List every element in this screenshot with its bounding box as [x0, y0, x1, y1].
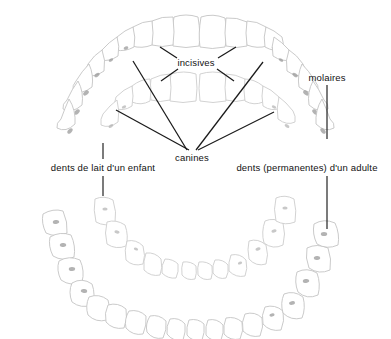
tooth-adult-lower-premolar — [105, 304, 126, 328]
tooth-baby-upper-molar — [101, 100, 119, 126]
tooth-adult-lower-canine — [125, 311, 146, 335]
label-dents-de-lait: dents de lait d'un enfant — [51, 163, 155, 173]
tooth-adult-upper — [225, 18, 248, 48]
tooth-baby-lower-molar — [275, 196, 296, 224]
tooth-baby-lower-incisor — [162, 259, 178, 278]
tooth-baby-upper-incisor — [150, 74, 171, 102]
tooth-baby-lower-incisor — [198, 262, 213, 280]
tooth-adult-lower-incisor — [146, 316, 166, 339]
dental-diagram: incisives canines molaires dents de lait… — [0, 0, 391, 339]
leader-line-canines — [198, 112, 274, 150]
leader-line-incisives — [218, 47, 236, 58]
tooth-adult-lower-incisor — [167, 319, 185, 339]
tooth-baby-lower-incisor — [213, 260, 229, 279]
cusp-mark — [284, 123, 290, 128]
tooth-adult-lower-premolar — [282, 293, 305, 319]
tooth-baby-upper-incisor — [199, 72, 227, 103]
label-incisives: incisives — [177, 58, 214, 68]
tooth-adult-lower-incisor — [206, 320, 224, 339]
label-molaires: molaires — [308, 73, 345, 83]
tooth-baby-lower-canine — [125, 241, 144, 265]
tooth-adult-upper — [151, 17, 174, 47]
label-canines: canines — [175, 153, 209, 163]
tooth-baby-lower-incisor — [144, 253, 162, 276]
cusp-mark — [282, 206, 287, 209]
upper-baby-arch — [101, 72, 296, 129]
tooth-baby-lower-incisor — [182, 262, 197, 280]
tooth-adult-lower-molar — [296, 270, 320, 297]
tooth-baby-upper-canine — [132, 79, 152, 104]
leader-line-canines — [116, 110, 189, 150]
tooth-adult-upper — [172, 15, 200, 48]
label-dents-permanentes: dents (permanentes) d'un adulte — [236, 163, 377, 173]
tooth-adult-lower-incisor — [224, 318, 243, 339]
tooth-baby-upper-incisor — [169, 72, 197, 103]
tooth-baby-upper-molar — [277, 97, 295, 123]
cusp-mark — [102, 207, 107, 210]
tooth-baby-lower-canine — [229, 255, 247, 277]
tooth-adult-upper — [199, 15, 226, 48]
tooth-adult-lower-incisor — [187, 320, 205, 339]
leader-line-incisives — [160, 47, 177, 58]
lower-baby-arch — [94, 196, 296, 279]
tooth-baby-lower-molar — [106, 221, 128, 248]
tooth-adult-lower-premolar — [262, 306, 283, 330]
cusp-mark — [321, 232, 327, 236]
tooth-adult-lower-canine — [242, 313, 262, 336]
